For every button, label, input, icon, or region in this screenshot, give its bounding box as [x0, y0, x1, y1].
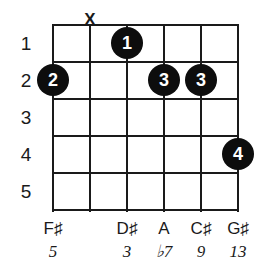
fret-line-1: [52, 61, 239, 63]
fret-line-4: [52, 172, 239, 174]
string-line-5: [200, 24, 202, 212]
guitar-chord-diagram: 1 2 3 4 5 X 1 2 3 3 4 F♯ D♯ A C♯ G♯ 5 3 …: [0, 0, 267, 279]
string-line-6: [237, 24, 239, 212]
note-label-string-6: G♯: [218, 220, 258, 237]
string-line-2: [89, 24, 91, 212]
fret-number-4: 4: [12, 145, 40, 164]
finger-dot-string-6-fret-4: 4: [222, 138, 254, 170]
finger-dot-string-4-fret-2: 3: [148, 64, 180, 96]
interval-label-string-1: 5: [33, 243, 73, 260]
string-line-1: [52, 24, 54, 212]
note-label-string-5: C♯: [181, 220, 221, 237]
fret-number-2: 2: [12, 71, 40, 90]
interval-label-string-4: ♭7: [144, 243, 184, 260]
fret-number-1: 1: [12, 34, 40, 53]
finger-dot-string-5-fret-2: 3: [185, 64, 217, 96]
fret-number-5: 5: [12, 182, 40, 201]
interval-label-string-6: 13: [218, 243, 258, 260]
fret-number-3: 3: [12, 108, 40, 127]
fret-line-5: [52, 209, 239, 211]
string-line-4: [163, 24, 165, 212]
mute-marker-string-2: X: [81, 10, 99, 28]
finger-dot-string-1-fret-2: 2: [37, 64, 69, 96]
note-label-string-1: F♯: [33, 220, 73, 237]
interval-label-string-3: 3: [107, 243, 147, 260]
note-label-string-3: D♯: [107, 220, 147, 237]
interval-label-string-5: 9: [181, 243, 221, 260]
fret-line-2: [52, 98, 239, 100]
finger-dot-string-3-fret-1: 1: [111, 27, 143, 59]
note-label-string-4: A: [144, 220, 184, 237]
fret-line-3: [52, 135, 239, 137]
